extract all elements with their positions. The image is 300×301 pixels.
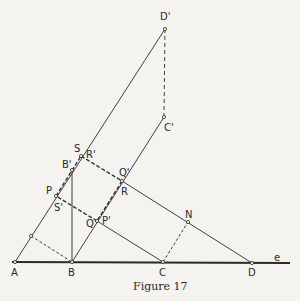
point-cprime bbox=[162, 115, 165, 118]
point-a bbox=[13, 260, 16, 263]
point-c bbox=[161, 260, 164, 263]
point-d bbox=[250, 261, 253, 264]
label-qprime: Q' bbox=[119, 167, 130, 178]
label-q: Q bbox=[86, 218, 94, 229]
point-p bbox=[54, 194, 57, 197]
label-pprime: P' bbox=[102, 215, 111, 226]
label-b: B bbox=[68, 267, 75, 278]
point-n bbox=[186, 220, 189, 223]
label-n: N bbox=[185, 209, 192, 220]
label-e: e bbox=[274, 252, 280, 263]
point-b bbox=[70, 260, 73, 263]
label-rprime: R' bbox=[86, 149, 96, 160]
figure-caption: Figure 17 bbox=[133, 280, 188, 293]
point-dprime bbox=[163, 27, 166, 30]
label-dprime: D' bbox=[160, 11, 170, 22]
point-r bbox=[120, 179, 123, 182]
line-e bbox=[12, 262, 290, 263]
label-a: A bbox=[11, 267, 18, 278]
point-q bbox=[95, 219, 98, 222]
label-bprime: B' bbox=[62, 159, 72, 170]
point-s bbox=[79, 154, 82, 157]
label-r: R bbox=[121, 186, 128, 197]
line-cprime-b bbox=[72, 117, 164, 262]
label-s: S bbox=[74, 143, 80, 154]
line-q-c bbox=[97, 221, 163, 262]
geometry-figure: A B C D e D' C' S R' B' Q' R P S' Q P' N… bbox=[0, 0, 300, 301]
label-d: D bbox=[248, 267, 256, 278]
line-c-n bbox=[163, 222, 188, 262]
line-dprime-cprime bbox=[164, 29, 165, 117]
label-sprime: S' bbox=[54, 202, 63, 213]
point-aux bbox=[29, 234, 32, 237]
label-p: P bbox=[46, 185, 52, 196]
label-c: C bbox=[159, 267, 166, 278]
line-aux-b bbox=[31, 236, 72, 262]
label-cprime: C' bbox=[164, 122, 174, 133]
